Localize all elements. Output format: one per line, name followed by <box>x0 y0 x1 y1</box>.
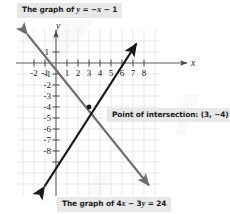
graph-figure: -2 -1 1 2 3 4 5 6 7 8 1 -1 -2 -3 -4 -5 -… <box>0 0 230 214</box>
label-line-1-rhs: − 1 <box>101 5 117 14</box>
label-line-1-eq: = − <box>80 5 97 14</box>
label-line-1: The graph of y = −x − 1 <box>17 3 122 18</box>
x-tick-label: 7 <box>131 68 136 78</box>
label-line-1-prefix: The graph of <box>22 5 77 14</box>
y-tick-label: -2 <box>44 80 52 90</box>
x-tick-label: 4 <box>98 68 103 78</box>
coordinate-plane: -2 -1 1 2 3 4 5 6 7 8 1 -1 -2 -3 -4 -5 -… <box>0 0 230 214</box>
y-tick-label: -7 <box>44 135 52 145</box>
x-tick-label: 2 <box>76 68 81 78</box>
label-point-of-intersection: Point of intersection: (3, −4) <box>107 108 230 122</box>
y-tick-label: -3 <box>44 91 52 101</box>
y-tick-label: -1 <box>44 69 52 79</box>
label-line-2-prefix: The graph of 4 <box>62 199 122 208</box>
label-line-2: The graph of 4x − 3y = 24 <box>57 197 171 212</box>
x-tick-label: 1 <box>65 68 70 78</box>
x-tick-label: -2 <box>30 68 38 78</box>
y-tick-label: -5 <box>44 113 52 123</box>
label-point-text: Point of intersection: (3, −4) <box>112 110 229 119</box>
x-tick-label: 3 <box>87 68 92 78</box>
x-tick-label: 8 <box>142 68 147 78</box>
y-tick-label: -6 <box>44 124 52 134</box>
intersection-point-marker <box>87 105 92 110</box>
y-tick-label: -8 <box>44 146 52 156</box>
x-tick-label: 5 <box>109 68 114 78</box>
y-tick-label: -4 <box>44 102 52 112</box>
label-line-2-mid: − 3 <box>126 199 142 208</box>
y-axis-label: y <box>55 21 61 31</box>
x-axis-label: x <box>190 58 196 68</box>
label-line-2-rhs: = 24 <box>145 199 166 208</box>
